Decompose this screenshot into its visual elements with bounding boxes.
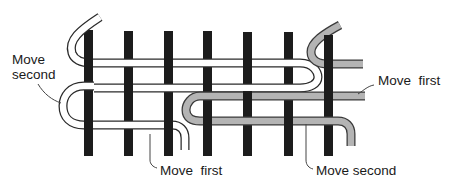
leader-move-first-bottom <box>150 134 157 168</box>
label-move-second-left: Move second <box>12 52 56 82</box>
gray-hook <box>311 25 363 64</box>
bar-3 <box>164 31 173 156</box>
weaving-diagram <box>0 0 453 188</box>
leader-move-second-left <box>38 84 61 103</box>
leader-move-first-right <box>358 85 374 94</box>
label-move-second-bottom: Move second <box>316 163 396 178</box>
label-move-first-right: Move first <box>378 73 440 88</box>
white-strand-a <box>71 17 318 88</box>
label-move-first-bottom: Move first <box>160 163 222 178</box>
bar-1 <box>84 30 93 156</box>
leader-move-second-bottom <box>306 124 313 169</box>
gray-strand <box>186 96 365 146</box>
